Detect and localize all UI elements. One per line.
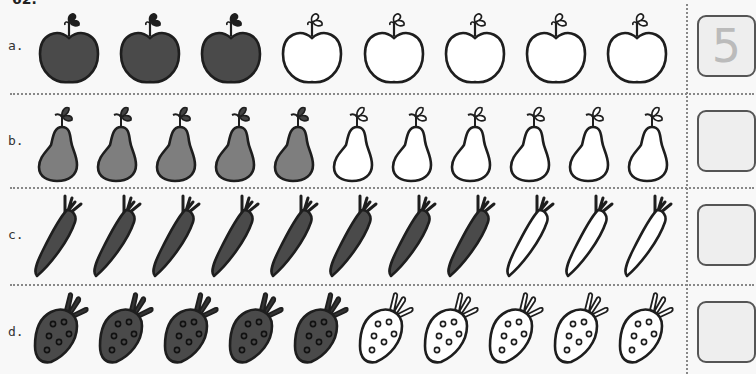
pear-filled-icon: [212, 99, 258, 187]
apple-filled-icon: [118, 8, 182, 92]
row-label: c.: [8, 227, 24, 242]
carrot-filled-icon: [208, 192, 262, 282]
carrot-filled-icon: [326, 192, 380, 282]
strawberry-filled-icon: [31, 290, 91, 370]
pear-list: [28, 101, 678, 185]
pear-filled-icon: [153, 99, 199, 187]
apple-filled-icon: [199, 8, 263, 92]
pear-outline-icon: [566, 99, 612, 187]
pear-filled-icon: [35, 99, 81, 187]
strawberry-filled-icon: [161, 290, 221, 370]
answer-box-b[interactable]: [697, 110, 756, 172]
pear-outline-icon: [389, 99, 435, 187]
carrot-filled-icon: [267, 192, 321, 282]
row-label: d.: [8, 324, 24, 339]
apple-outline-icon: [362, 8, 426, 92]
carrot-filled-icon: [149, 192, 203, 282]
apple-outline-icon: [280, 8, 344, 92]
apple-outline-icon: [524, 8, 588, 92]
carrot-list: [28, 195, 678, 279]
answer-box-c[interactable]: [697, 204, 756, 266]
answer-box-d[interactable]: [697, 301, 756, 363]
carrot-filled-icon: [444, 192, 498, 282]
row-label: a.: [8, 38, 24, 53]
carrot-filled-icon: [90, 192, 144, 282]
row-b: b.: [0, 95, 754, 187]
strawberry-filled-icon: [96, 290, 156, 370]
row-a: a.: [0, 0, 754, 94]
row-c: c.: [0, 189, 754, 281]
carrot-filled-icon: [31, 192, 85, 282]
answer-box-a[interactable]: 5: [697, 15, 756, 77]
pear-filled-icon: [94, 99, 140, 187]
apple-filled-icon: [37, 8, 101, 92]
row-d: d.: [0, 286, 754, 374]
strawberry-filled-icon: [226, 290, 286, 370]
strawberry-outline-icon: [356, 290, 416, 370]
carrot-outline-icon: [503, 192, 557, 282]
pear-outline-icon: [330, 99, 376, 187]
apple-outline-icon: [443, 8, 507, 92]
carrot-filled-icon: [385, 192, 439, 282]
row-label: b.: [8, 133, 24, 148]
pear-outline-icon: [448, 99, 494, 187]
carrot-outline-icon: [621, 192, 675, 282]
strawberry-outline-icon: [616, 290, 676, 370]
strawberry-list: [28, 292, 678, 368]
pear-outline-icon: [507, 99, 553, 187]
pear-filled-icon: [271, 99, 317, 187]
strawberry-outline-icon: [486, 290, 546, 370]
apple-outline-icon: [605, 8, 669, 92]
apple-list: [28, 10, 678, 90]
strawberry-outline-icon: [551, 290, 611, 370]
strawberry-filled-icon: [291, 290, 351, 370]
strawberry-outline-icon: [421, 290, 481, 370]
carrot-outline-icon: [562, 192, 616, 282]
pear-outline-icon: [625, 99, 671, 187]
